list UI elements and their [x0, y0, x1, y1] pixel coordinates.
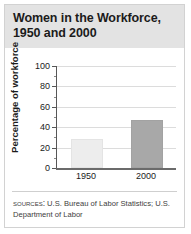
plot-area: 020406080100 19502000	[56, 66, 176, 168]
y-tick-label: 80	[40, 81, 50, 91]
y-tick-label: 20	[40, 143, 50, 153]
chart-figure: Women in the Workforce, 1950 and 2000 Pe…	[4, 4, 185, 228]
bar-2000	[131, 120, 163, 168]
y-tick-label: 100	[35, 61, 50, 71]
y-tick-label: 40	[40, 122, 50, 132]
gridline	[56, 107, 176, 108]
y-axis-label: Percentage of workforce	[9, 40, 20, 156]
y-tick-label: 60	[40, 102, 50, 112]
plot-region: Percentage of workforce 020406080100 195…	[5, 48, 184, 182]
x-tick-label-1950: 1950	[76, 171, 96, 181]
gridline	[56, 66, 176, 67]
y-tick-label: 0	[45, 163, 50, 173]
bar-1950	[71, 139, 103, 168]
title-band: Women in the Workforce, 1950 and 2000	[5, 5, 184, 48]
x-axis-line	[56, 168, 176, 170]
sources-note: Sources: U.S. Bureau of Labor Statistics…	[13, 198, 177, 220]
sources-label: Sources:	[13, 198, 45, 208]
y-axis-line	[56, 66, 57, 169]
chart-title: Women in the Workforce, 1950 and 2000	[13, 11, 178, 40]
x-tick-label-2000: 2000	[136, 171, 156, 181]
sources-divider	[12, 191, 177, 192]
gridline	[56, 86, 176, 87]
